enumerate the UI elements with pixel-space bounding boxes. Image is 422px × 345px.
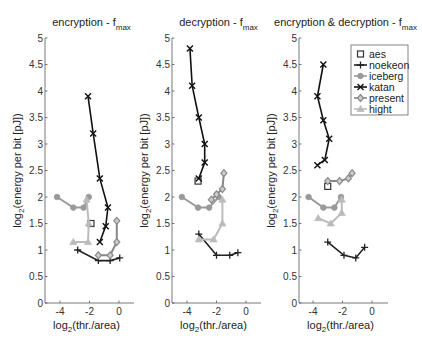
iceberg-marker-icon	[81, 205, 87, 211]
subplot-title: encryption - fmax	[52, 16, 131, 32]
y-tick-label: 0	[37, 298, 43, 309]
present-marker-icon	[221, 170, 227, 177]
y-tick-label: 3	[164, 139, 170, 150]
x-tick-label: 0	[369, 306, 375, 317]
iceberg-marker-icon	[321, 205, 327, 211]
x-tick-label: 0	[243, 306, 249, 317]
x-tick-label: -4	[309, 306, 318, 317]
y-tick-label: 3	[291, 139, 297, 150]
y-tick-label: 1	[291, 245, 297, 256]
y-tick-label: 2.5	[29, 165, 43, 176]
series-katan	[187, 46, 208, 182]
y-tick-label: 0.5	[156, 271, 170, 282]
y-tick-label: 1.5	[283, 218, 297, 229]
y-tick-label: 3.5	[29, 112, 43, 123]
iceberg-marker-icon	[195, 205, 201, 211]
y-tick-label: 1	[37, 245, 43, 256]
y-tick-label: 3.5	[283, 112, 297, 123]
aes-marker-icon	[358, 51, 364, 57]
y-tick-label: 2	[291, 192, 297, 203]
y-tick-label: 4	[164, 86, 170, 97]
y-tick-label: 4.5	[29, 59, 43, 70]
hight-marker-icon	[338, 209, 345, 215]
iceberg-marker-icon	[54, 194, 60, 200]
y-tick-label: 5	[37, 33, 43, 44]
katan-marker-icon	[314, 162, 320, 168]
y-tick-label: 4	[37, 86, 43, 97]
x-axis-label: log2(thr./area)	[307, 319, 374, 334]
y-axis-label: log2(energy per bit [pJ])	[138, 113, 153, 228]
iceberg-marker-icon	[70, 205, 76, 211]
noekeon-marker-icon	[74, 247, 81, 254]
series-noekeon	[324, 239, 368, 262]
legend-label: hight	[369, 103, 392, 115]
x-axis-label: log2(thr./area)	[53, 319, 120, 334]
present-marker-icon	[95, 252, 101, 259]
y-axis-label: log2(energy per bit [pJ])	[11, 113, 26, 228]
x-tick-label: -4	[183, 306, 192, 317]
y-tick-label: 4.5	[283, 59, 297, 70]
y-tick-label: 0.5	[29, 271, 43, 282]
y-tick-label: 1	[164, 245, 170, 256]
noekeon-marker-icon	[234, 249, 241, 256]
iceberg-marker-icon	[358, 73, 364, 79]
y-tick-label: 5	[291, 33, 297, 44]
hight-marker-icon	[315, 215, 322, 221]
subplot-1: 00.511.522.533.544.55-4-20encryption - f…	[11, 16, 134, 334]
iceberg-marker-icon	[179, 194, 185, 200]
y-tick-label: 3.5	[156, 112, 170, 123]
x-tick-label: -2	[338, 306, 347, 317]
y-tick-label: 5	[164, 33, 170, 44]
y-tick-label: 2.5	[156, 165, 170, 176]
y-tick-label: 0	[291, 298, 297, 309]
noekeon-marker-icon	[116, 254, 123, 261]
iceberg-marker-icon	[332, 205, 338, 211]
figure: 00.511.522.533.544.55-4-20encryption - f…	[0, 0, 422, 345]
y-tick-label: 2.5	[283, 165, 297, 176]
series-present	[325, 170, 355, 185]
y-tick-label: 2	[37, 192, 43, 203]
subplot-title: decryption - fmax	[179, 16, 258, 32]
y-tick-label: 1.5	[29, 218, 43, 229]
present-marker-icon	[337, 178, 343, 185]
series-noekeon	[195, 231, 241, 259]
legend: aesnoekeonicebergkatanpresenthight	[351, 45, 409, 115]
y-tick-label: 0.5	[283, 271, 297, 282]
x-tick-label: -2	[212, 306, 221, 317]
iceberg-marker-icon	[206, 205, 212, 211]
y-tick-label: 2	[164, 192, 170, 203]
subplot-title: encryption & decryption - fmax	[274, 16, 417, 32]
subplot-2: 00.511.522.533.544.55-4-20decryption - f…	[138, 16, 261, 334]
x-axis-label: log2(thr./area)	[180, 319, 247, 334]
iceberg-marker-icon	[306, 194, 312, 200]
present-marker-icon	[114, 217, 120, 224]
x-tick-label: 0	[116, 306, 122, 317]
series-hight	[315, 196, 346, 226]
y-tick-label: 0	[164, 298, 170, 309]
y-tick-label: 1.5	[156, 218, 170, 229]
noekeon-marker-icon	[226, 252, 233, 259]
series-katan	[314, 62, 332, 169]
y-axis-label: log2(energy per bit [pJ])	[265, 113, 280, 228]
x-tick-label: -4	[56, 306, 65, 317]
hight-marker-icon	[219, 220, 226, 226]
y-tick-label: 4	[291, 86, 297, 97]
x-tick-label: -2	[85, 306, 94, 317]
series-hight	[70, 196, 92, 244]
y-tick-label: 4.5	[156, 59, 170, 70]
y-tick-label: 3	[37, 139, 43, 150]
